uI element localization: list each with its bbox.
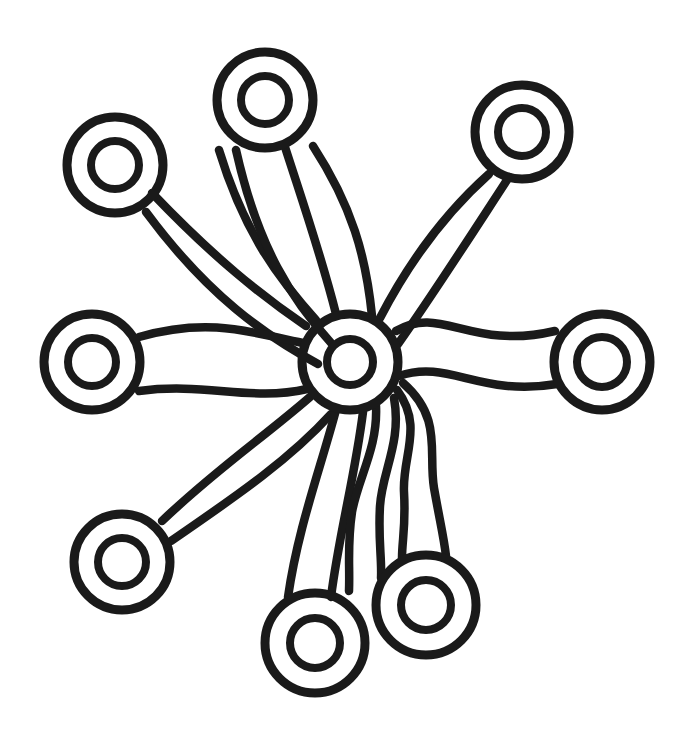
background (0, 0, 696, 740)
arm-left-edge-b (139, 389, 307, 394)
artboard (0, 0, 696, 740)
line-art-canvas (0, 0, 696, 740)
